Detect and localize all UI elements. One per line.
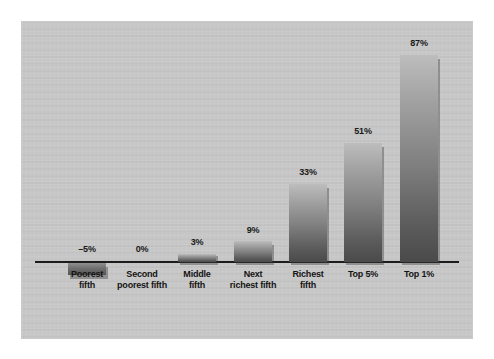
bar-middle-fifth[interactable] — [178, 254, 216, 262]
bar-value-label: 33% — [279, 167, 337, 177]
chart-figure: –5% Poorest fifth 0% Second poorest fift… — [22, 22, 472, 338]
bar-top-1-percent[interactable] — [400, 55, 438, 262]
bar-value-label: 87% — [390, 38, 448, 48]
bar-richest-fifth[interactable] — [289, 184, 327, 262]
bar-value-label: 0% — [113, 244, 171, 254]
bar-value-label: –5% — [58, 244, 116, 254]
bar-value-label: 51% — [334, 126, 392, 136]
bar-group-top-1-percent[interactable]: 87% Top 1% — [390, 22, 448, 338]
bar-value-label: 3% — [168, 237, 226, 247]
category-label-top-1-percent: Top 1% — [384, 269, 454, 280]
bar-top-5-percent[interactable] — [344, 143, 382, 262]
bar-group-richest-fifth[interactable]: 33% Richest fifth — [279, 22, 337, 338]
category-label-line2: fifth — [273, 280, 343, 291]
plot-area: –5% Poorest fifth 0% Second poorest fift… — [22, 22, 472, 338]
category-label-line1: Top 1% — [384, 269, 454, 280]
bar-next-richest-fifth[interactable] — [234, 241, 272, 262]
bar-value-label: 9% — [224, 225, 282, 235]
bar-group-top-5-percent[interactable]: 51% Top 5% — [334, 22, 392, 338]
